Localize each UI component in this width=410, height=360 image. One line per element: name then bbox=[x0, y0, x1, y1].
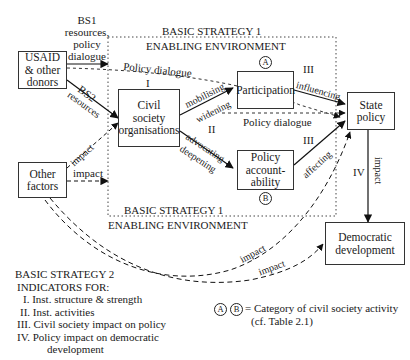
legend-B-marker: B bbox=[230, 303, 243, 316]
roman-III-top-label: III bbox=[303, 63, 314, 75]
legend-item-IV: IV. Policy impact on democratic bbox=[15, 331, 166, 344]
bs2-legend: BASIC STRATEGY 2 INDICATORS FOR: I. Inst… bbox=[15, 268, 166, 356]
bs1-line-4: dialogue bbox=[64, 50, 110, 62]
region-top-title: BASIC STRATEGY 1 bbox=[162, 25, 261, 37]
state-policy-line-2: policy bbox=[357, 111, 386, 124]
roman-II-label: II bbox=[208, 123, 215, 135]
accountability-line-3: ability bbox=[251, 176, 280, 189]
category-A-marker: A bbox=[259, 56, 272, 69]
donors-box: USAID & other donors bbox=[18, 51, 67, 89]
roman-IV-label: IV bbox=[353, 166, 365, 178]
democratic-line-1: Democratic bbox=[338, 231, 392, 244]
roman-I-label: I bbox=[146, 77, 150, 89]
state-policy-box: State policy bbox=[347, 92, 395, 130]
region-bottom-subtitle: ENABLING ENVIRONMENT bbox=[108, 219, 248, 231]
cso-line-3: organisations bbox=[118, 124, 179, 137]
category-B-marker: B bbox=[259, 192, 272, 205]
legend-A-marker: A bbox=[214, 303, 227, 316]
policy-dialogue-mid-label: Policy dialogue bbox=[243, 116, 312, 128]
legend-item-IV-cont: development bbox=[15, 343, 166, 356]
legend-item-I: I. Inst. structure & strength bbox=[15, 293, 166, 306]
bs1-label: BS1 resources, policy dialogue bbox=[64, 14, 110, 62]
participation-box: Participation bbox=[237, 71, 294, 109]
state-policy-line-1: State bbox=[360, 99, 383, 112]
donors-line-3: donors bbox=[27, 76, 58, 89]
legend-item-II: II. Inst. activities bbox=[15, 306, 166, 319]
democratic-line-2: development bbox=[335, 244, 394, 257]
participation-label: Participation bbox=[236, 84, 295, 97]
impact-other-right-label: impact bbox=[73, 167, 103, 179]
cso-box: Civil society organisations bbox=[118, 89, 180, 147]
accountability-line-1: Policy bbox=[251, 151, 280, 164]
roman-III-bottom-label: III bbox=[303, 134, 314, 146]
accountability-line-2: account- bbox=[246, 164, 286, 177]
legend-title: BASIC STRATEGY 2 bbox=[15, 268, 166, 281]
category-note: = Category of civil society activity (cf… bbox=[245, 302, 398, 327]
bs1-line-2: resources, bbox=[64, 26, 110, 38]
category-note-ref: (cf. Table 2.1) bbox=[245, 315, 398, 328]
cso-line-1: Civil bbox=[137, 99, 160, 112]
bs1-line-3: policy bbox=[64, 38, 110, 50]
impact-vertical-label: impact bbox=[372, 157, 384, 184]
other-factors-line-1: Other bbox=[29, 168, 55, 181]
democratic-development-box: Democratic development bbox=[325, 222, 405, 265]
legend-subtitle: INDICATORS FOR: bbox=[15, 281, 166, 294]
other-factors-line-2: factors bbox=[27, 180, 58, 193]
donors-line-2: & other bbox=[25, 64, 60, 77]
legend-item-III: III. Civil society impact on policy bbox=[15, 318, 166, 331]
donors-line-1: USAID bbox=[25, 51, 60, 64]
accountability-box: Policy account- ability bbox=[237, 150, 294, 190]
bs1-line-1: BS1 bbox=[64, 14, 110, 26]
category-note-text: = Category of civil society activity bbox=[245, 302, 398, 315]
other-factors-box: Other factors bbox=[18, 162, 67, 198]
region-top-subtitle: ENABLING ENVIRONMENT bbox=[146, 40, 286, 52]
region-bottom-title: BASIC STRATEGY 1 bbox=[124, 204, 223, 216]
cso-line-2: society bbox=[133, 112, 166, 125]
